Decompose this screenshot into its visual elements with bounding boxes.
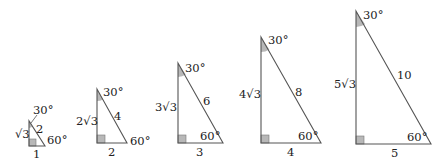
right-angle-marker [178, 135, 186, 143]
short-leg-label: 1 [33, 147, 40, 161]
top-angle-label: 30° [103, 85, 123, 99]
hypotenuse-label: 10 [397, 68, 412, 82]
short-leg-label: 5 [391, 146, 398, 160]
bottom-angle-label: 60° [200, 129, 220, 143]
triangle-1: 30° 2 √3 60° 1 [15, 103, 67, 161]
hypotenuse-label: 4 [114, 109, 121, 123]
triangle-4: 30° 8 4√3 60° 4 [239, 33, 321, 159]
right-angle-marker [29, 139, 36, 146]
hypotenuse-label: 6 [203, 94, 210, 108]
long-leg-label: √3 [15, 127, 30, 141]
bottom-angle-label: 60° [47, 133, 67, 147]
right-angle-marker [261, 135, 269, 143]
triangle-outline [261, 37, 321, 143]
hypotenuse-label: 8 [295, 85, 302, 99]
long-leg-label: 5√3 [334, 77, 356, 91]
bottom-angle-label: 60° [298, 129, 318, 143]
top-angle-label: 30° [268, 33, 288, 47]
right-angle-marker [97, 135, 105, 143]
top-angle-label: 30° [185, 61, 205, 75]
long-leg-label: 3√3 [155, 100, 177, 114]
hypotenuse-label: 2 [36, 122, 43, 136]
triangle-2: 30° 4 2√3 60° 2 [76, 85, 150, 159]
top-angle-label: 30° [33, 103, 53, 117]
triangle-5: 30° 10 5√3 60° 5 [334, 8, 431, 160]
triangle-outline [356, 11, 431, 144]
triangles-diagram: 30° 2 √3 60° 1 30° 4 2√3 60° 2 30° 6 3√3… [0, 0, 441, 165]
bottom-angle-label: 60° [407, 130, 427, 144]
long-leg-label: 4√3 [239, 87, 261, 101]
short-leg-label: 4 [287, 145, 294, 159]
bottom-angle-label: 60° [130, 134, 150, 148]
short-leg-label: 3 [196, 145, 203, 159]
top-angle-label: 30° [363, 8, 383, 22]
right-angle-marker [356, 136, 364, 144]
long-leg-label: 2√3 [76, 114, 98, 128]
triangle-3: 30° 6 3√3 60° 3 [155, 61, 223, 159]
short-leg-label: 2 [108, 145, 115, 159]
